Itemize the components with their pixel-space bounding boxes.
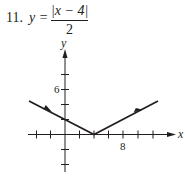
x-axis-arrow-icon: [167, 132, 176, 137]
graph: y x 6 8: [0, 0, 185, 191]
y-axis-label: y: [60, 36, 67, 50]
x-axis-label: x: [177, 127, 184, 141]
y-axis-arrow-icon: [63, 49, 68, 58]
x-tick-label-8: 8: [120, 140, 126, 152]
y-tick-label-6: 6: [54, 83, 60, 95]
function-curve: [29, 101, 158, 135]
